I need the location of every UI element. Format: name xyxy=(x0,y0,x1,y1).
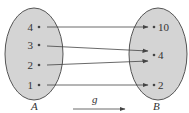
codomain-element-label: 2 xyxy=(158,79,164,91)
codomain-element-dot xyxy=(153,54,156,57)
domain-element-dot xyxy=(38,26,41,29)
codomain-element-dot xyxy=(153,84,156,87)
codomain-element-dot xyxy=(153,26,156,29)
codomain-element-label: 10 xyxy=(158,21,170,33)
domain-element-label: 4 xyxy=(28,21,34,33)
domain-element-dot xyxy=(38,84,41,87)
function-name-label: g xyxy=(92,93,98,105)
domain-element-dot xyxy=(38,44,41,47)
set-a-ellipse xyxy=(5,8,63,100)
codomain-element-label: 4 xyxy=(158,49,164,61)
domain-element-label: 2 xyxy=(28,59,34,71)
set-a-label: A xyxy=(30,100,38,112)
domain-element-label: 1 xyxy=(28,79,34,91)
function-mapping-diagram: 4321 1042 A B g xyxy=(0,0,189,113)
domain-element-dot xyxy=(38,64,41,67)
domain-element-label: 3 xyxy=(28,39,34,51)
set-b-label: B xyxy=(153,100,160,112)
